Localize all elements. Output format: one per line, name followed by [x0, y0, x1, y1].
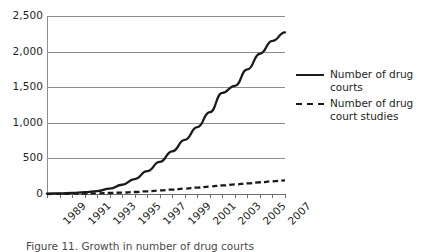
- x-tick-1998: [160, 194, 161, 198]
- y-tick-label-2500: 2,500: [1, 10, 43, 21]
- x-tick-1991: [72, 194, 73, 198]
- x-tick-label-1997: 1997: [161, 200, 188, 227]
- legend-item-label: Number of drug court studies: [330, 97, 434, 122]
- x-tick-2006: [260, 194, 261, 198]
- y-tick-label-1500: 1,500: [1, 81, 43, 92]
- y-tick-label-1000: 1,000: [1, 117, 43, 128]
- x-tick-label-1991: 1991: [86, 200, 113, 227]
- x-tick-label-1989: 1989: [61, 200, 88, 227]
- x-tick-2001: [197, 194, 198, 198]
- x-tick-label-2007: 2007: [286, 200, 313, 227]
- x-tick-2000: [185, 194, 186, 198]
- dashed-line-icon: [296, 97, 324, 111]
- x-tick-1997: [147, 194, 148, 198]
- y-tick-label-2000: 2,000: [1, 46, 43, 57]
- x-tick-label-2005: 2005: [261, 200, 288, 227]
- x-tick-1996: [135, 194, 136, 198]
- legend-item-1: Number of drug courts: [296, 68, 436, 93]
- x-tick-label-2001: 2001: [211, 200, 238, 227]
- legend-item-2: Number of drug court studies: [296, 97, 436, 122]
- x-tick-label-1995: 1995: [136, 200, 163, 227]
- x-tick-1994: [110, 194, 111, 198]
- y-axis-labels: 05001,0001,5002,0002,500: [0, 0, 43, 249]
- x-tick-2002: [210, 194, 211, 198]
- x-tick-2003: [222, 194, 223, 198]
- y-tick-label-500: 500: [1, 152, 43, 163]
- x-tick-2004: [235, 194, 236, 198]
- y-tick-label-0: 0: [1, 188, 43, 199]
- solid-line-icon: [296, 68, 324, 82]
- legend-item-label: Number of drug courts: [330, 68, 434, 93]
- series-line-number-of-drug-courts: [47, 32, 285, 193]
- x-tick-1999: [172, 194, 173, 198]
- x-tick-2007: [272, 194, 273, 198]
- chart-legend: Number of drug courtsNumber of drug cour…: [296, 68, 436, 126]
- x-tick-label-2003: 2003: [236, 200, 263, 227]
- x-tick-2008: [285, 194, 286, 198]
- x-tick-label-1999: 1999: [186, 200, 213, 227]
- x-tick-1995: [122, 194, 123, 198]
- x-tick-label-1993: 1993: [111, 200, 138, 227]
- series-container: [47, 16, 285, 194]
- figure-caption: Figure 11. Growth in number of drug cour…: [26, 240, 254, 252]
- x-tick-1993: [97, 194, 98, 198]
- x-tick-2005: [247, 194, 248, 198]
